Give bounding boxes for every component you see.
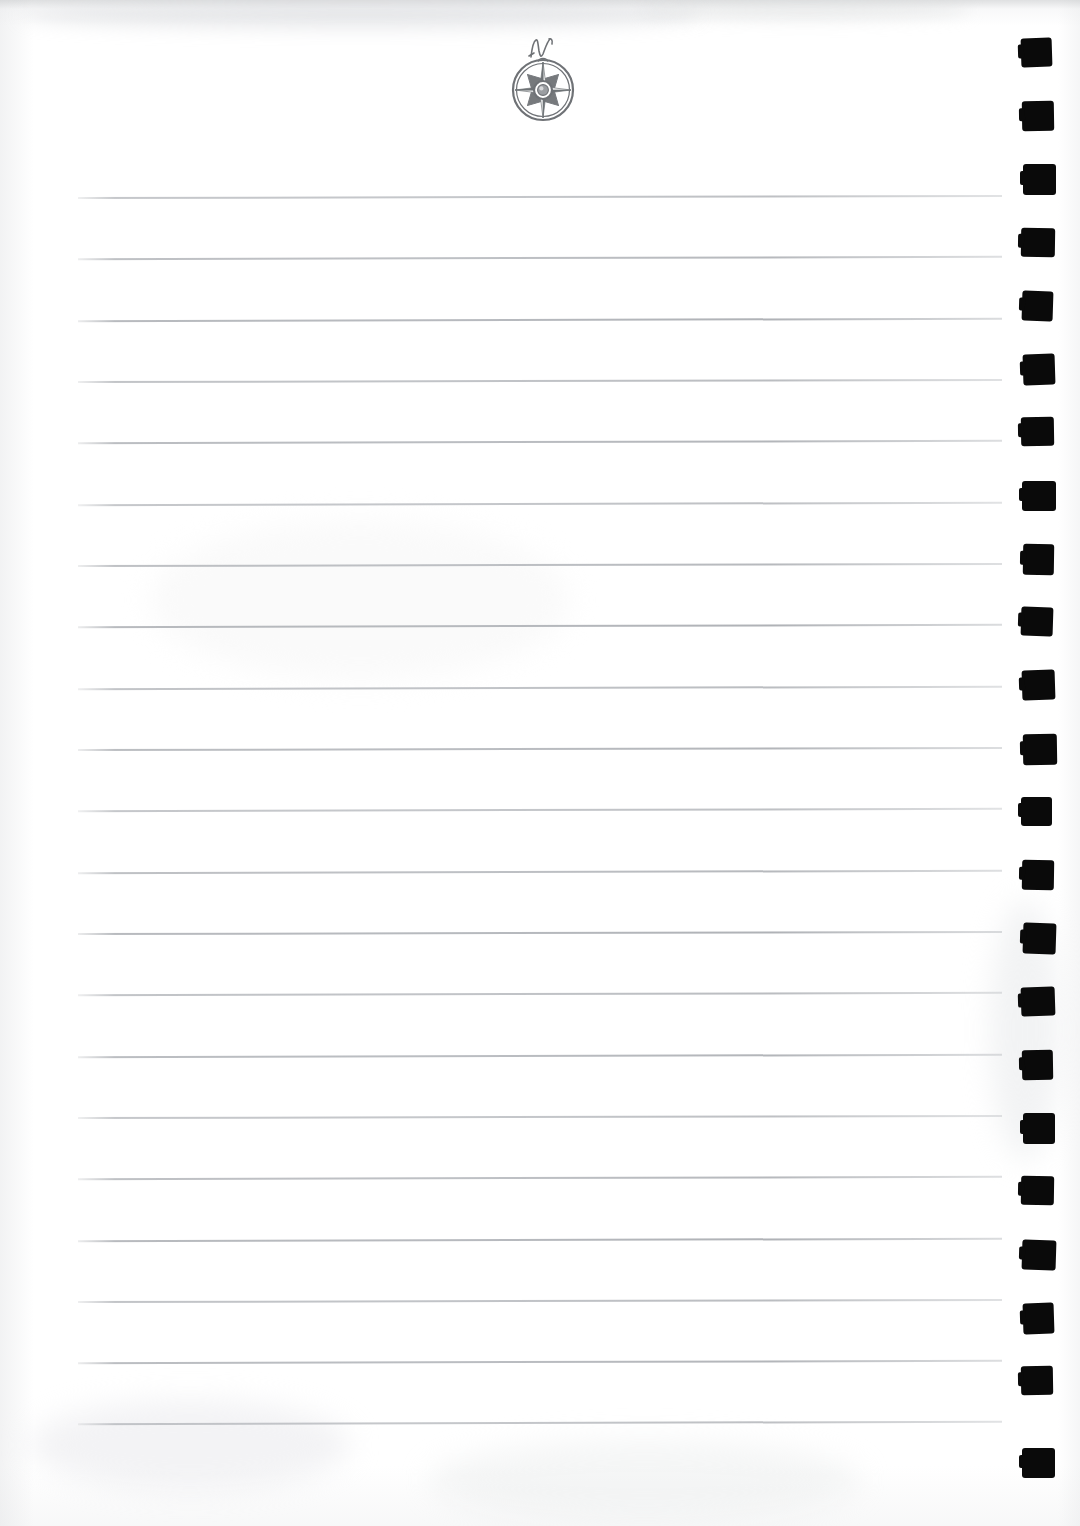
rule-line xyxy=(78,931,1002,935)
binding-mark xyxy=(1022,291,1054,322)
rule-line xyxy=(78,256,1002,260)
binding-mark xyxy=(1023,164,1056,195)
rule-line xyxy=(78,1299,1002,1303)
binding-mark xyxy=(1021,1176,1054,1206)
scan-shadow-top-right xyxy=(640,0,970,20)
binding-mark xyxy=(1021,607,1054,637)
binding-mark xyxy=(1022,101,1054,131)
binding-mark xyxy=(1021,417,1054,447)
rule-line xyxy=(78,686,1002,691)
rule-line xyxy=(78,1054,1002,1059)
binding-mark xyxy=(1021,38,1053,68)
binding-mark xyxy=(1022,1050,1053,1080)
rule-line xyxy=(78,502,1002,507)
rule-line xyxy=(78,808,1002,812)
scan-shadow-bottom xyxy=(430,1440,860,1520)
rule-line xyxy=(78,870,1002,875)
rule-line xyxy=(78,318,1002,323)
rule-line xyxy=(78,195,1002,199)
binding-mark xyxy=(1022,669,1056,700)
rule-line xyxy=(78,992,1002,996)
rule-line xyxy=(78,440,1002,444)
binding-mark xyxy=(1022,860,1054,890)
rule-line xyxy=(78,1421,1002,1426)
binding-mark xyxy=(1021,797,1052,826)
compass-rose-icon xyxy=(505,33,581,123)
rule-line xyxy=(78,747,1002,751)
scan-shadow-top xyxy=(20,2,700,28)
scan-highlight-middle xyxy=(150,520,570,680)
binding-mark xyxy=(1021,1366,1053,1395)
rule-line xyxy=(78,563,1002,567)
binding-mark xyxy=(1022,1239,1057,1270)
rule-line xyxy=(78,1360,1002,1364)
scanned-page xyxy=(0,0,1080,1526)
binding-mark xyxy=(1023,354,1056,386)
binding-mark xyxy=(1023,1113,1055,1144)
binding-mark xyxy=(1022,481,1056,511)
binding-mark xyxy=(1023,1303,1055,1335)
paper-texture xyxy=(0,0,1080,1526)
rule-line xyxy=(78,1115,1002,1119)
rule-line xyxy=(78,379,1002,383)
binding-mark xyxy=(1023,734,1057,766)
binding-mark xyxy=(1023,922,1057,954)
binding-mark xyxy=(1021,986,1056,1016)
binding-mark xyxy=(1021,228,1055,258)
rule-line xyxy=(78,624,1002,628)
scan-shadow-bottom-left xyxy=(30,1400,350,1490)
rule-line xyxy=(78,1238,1002,1243)
binding-mark xyxy=(1023,544,1054,575)
rule-line xyxy=(78,1176,1002,1180)
binding-mark xyxy=(1022,1448,1055,1478)
